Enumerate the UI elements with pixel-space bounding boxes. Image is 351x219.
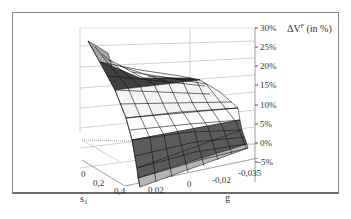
z-tick-25: 25% <box>260 42 277 52</box>
s1-tick-0.4: 0,4 <box>114 186 126 196</box>
z-tick-20: 20% <box>260 61 277 71</box>
z-tick-30: 30% <box>260 23 277 33</box>
s1-axis-label: s1 <box>80 193 88 206</box>
g-tick-0.02: 0,02 <box>148 185 164 195</box>
s1-tick-0.2: 0,2 <box>93 178 104 188</box>
z-axis: 30% 25% 20% 15% 10% 5% 0% -5% <box>255 23 277 167</box>
z-tick-15: 15% <box>260 80 277 90</box>
z-tick-5: 5% <box>260 119 273 129</box>
z-tick-10: 10% <box>260 100 277 110</box>
g-tick-0: 0 <box>187 179 192 189</box>
g-axis-label: g <box>225 192 230 203</box>
z-axis-label: ΔVF (in %) <box>287 23 332 35</box>
z-tick-0: 0% <box>260 138 273 148</box>
z-tick-neg5: -5% <box>258 157 273 167</box>
s1-axis: 0 0,2 0,4 s1 <box>80 169 126 206</box>
g-tick-neg0.035: -0,035 <box>238 168 262 178</box>
surface-chart: 30% 25% 20% 15% 10% 5% 0% -5% ΔVF (in %)… <box>0 0 351 219</box>
g-tick-neg0.02: -0,02 <box>212 175 231 185</box>
s1-tick-0: 0 <box>81 169 86 179</box>
